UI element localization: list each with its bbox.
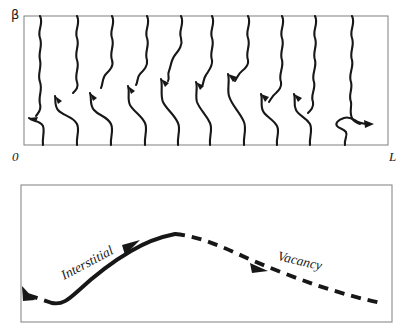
origin-label: 0	[12, 149, 19, 164]
beta-axis-label: β	[11, 7, 19, 22]
length-label: L	[388, 149, 396, 164]
bottom-panel-frame	[21, 185, 392, 322]
world-lines-panel: β 0 L	[11, 7, 396, 164]
diffusion-diagram: β 0 L	[0, 0, 406, 333]
migration-path-panel: Interstitial Vacancy	[21, 185, 392, 322]
